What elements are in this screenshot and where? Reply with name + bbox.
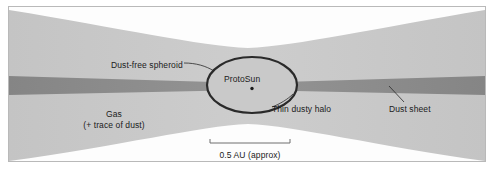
label-gas: Gas (+ trace of dust)	[64, 109, 164, 130]
label-gas-line-1: Gas	[64, 109, 164, 120]
protosun-point-marker	[250, 87, 253, 90]
nebula-diagram-figure: Dust-free spheroid ProtoSun Gas (+ trace…	[0, 0, 496, 174]
diagram-canvas	[0, 0, 496, 174]
label-scale-bar: 0.5 AU (approx)	[200, 150, 300, 161]
label-gas-line-2: (+ trace of dust)	[64, 120, 164, 131]
label-dust-free-spheroid: Dust-free spheroid	[111, 60, 183, 71]
scale-bar	[210, 139, 290, 143]
label-dust-sheet: Dust sheet	[389, 104, 431, 115]
label-thin-dusty-halo: Thin dusty halo	[272, 104, 331, 115]
label-protosun: ProtoSun	[224, 74, 260, 85]
